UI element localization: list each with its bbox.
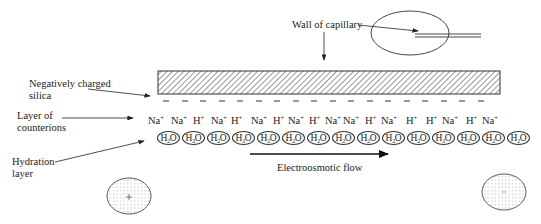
water-molecule: H2O [182,131,205,145]
counterion: H+ [193,114,204,126]
silica-arrow [88,89,150,96]
counterion: H+ [466,114,477,126]
water-molecule: H2O [332,131,355,145]
electroosmotic-flow-label: Electroosmotic flow [277,162,362,174]
capillary-wall-silica [158,71,500,94]
hydration-arrow [55,141,144,162]
layer-of-counterions-label-line2: counterions [17,122,66,134]
counterion: Na+ [148,114,164,126]
capillary-inset-ellipse [371,11,449,55]
water-molecule: H2O [357,131,380,145]
water-molecule: H2O [457,131,480,145]
counterion: H+ [426,114,437,126]
electroosmotic-flow-diagram [0,0,541,224]
water-molecule: H2O [157,131,180,145]
negatively-charged-silica-label-line2: silica [29,90,51,102]
water-molecule: H2O [382,131,405,145]
wall-to-inset-arrow [358,25,418,31]
hydration-layer-label-line2: layer [12,168,33,180]
counterion: H+ [273,114,284,126]
water-molecule: H2O [207,131,230,145]
water-molecule: H2O [482,131,505,145]
water-molecule: H2O [282,131,305,145]
counterion: Na+ [482,114,498,126]
layer-of-counterions-label-line1: Layer of [17,110,53,122]
counterion: Na+ [211,114,227,126]
water-molecule: H2O [232,131,255,145]
water-molecule: H2O [307,131,330,145]
water-molecule: H2O [407,131,430,145]
counterion: Na+ [288,114,304,126]
counterion: Na+ [251,114,267,126]
counterion: H+ [406,114,417,126]
counterion: Na+ [325,114,341,126]
counterion: H+ [309,114,320,126]
hydration-layer-label-line1: Hydration [12,156,55,168]
counterion: Na+ [171,114,187,126]
counterion: Na+ [343,114,359,126]
counterion: H+ [365,114,376,126]
wall-of-capillary-label: Wall of capillary [292,19,362,31]
counterion: Na+ [442,114,458,126]
counterion: H+ [231,114,242,126]
water-molecule: H2O [257,131,280,145]
counterion-layer: Na+ Na+ H+ Na+ H+ Na+ H+ Na+ H+ Na+ Na+ … [148,114,518,128]
water-molecule: H2O [432,131,455,145]
negatively-charged-silica-label-line1: Negatively charged [29,78,111,90]
water-molecule: H2O [507,131,530,145]
counterion: Na+ [381,114,397,126]
